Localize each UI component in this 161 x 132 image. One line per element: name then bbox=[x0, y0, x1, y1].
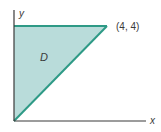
region-diagram: y x D (4, 4) bbox=[0, 0, 161, 132]
x-axis-label: x bbox=[149, 115, 156, 126]
y-axis-label: y bbox=[18, 8, 25, 19]
point-label: (4, 4) bbox=[116, 21, 139, 32]
region-label: D bbox=[40, 51, 48, 63]
